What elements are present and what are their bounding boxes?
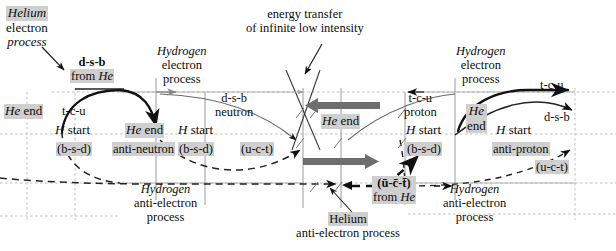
label-tcu-2: t-c-u [404,91,437,105]
curve-helium-anti-electron-left-start [62,131,120,183]
label-helium-electron-process-line3: process [6,35,48,50]
label-he-end-4: He end [466,104,487,133]
label-tcu-3: t-c-u [540,78,564,92]
label-he-end-1: He end [4,104,43,119]
label-helium-electron-process: Helium electron process [6,6,48,50]
label-dsb-1: d-s-b [215,91,253,105]
label-dsb-from-he: d-s-b from He [70,55,114,83]
label-dsb-2: d-s-b [544,110,570,124]
label-energy-transfer-line1: energy transfer [246,7,364,21]
label-hep-left-line2: electron [157,58,207,72]
label-hydrogen-anti-electron-process-right: Hydrogen anti-electron process [443,182,506,224]
label-haep-right-line3: process [443,210,506,224]
label-he-end-3: He end [321,114,360,129]
label-uct-bar-from-he: (ū-c̄-t̄) from He [372,176,416,204]
label-hep-right-line3: process [456,72,506,86]
label-hydrogen-anti-electron-process-left: Hydrogen anti-electron process [134,182,197,224]
thick-gray-arrows [303,98,380,169]
diagram-canvas: Helium electron process d-s-b from He Hy… [0,0,616,251]
label-proton: proton [404,105,437,119]
label-he-end-4-line2: end [466,119,487,134]
label-haep-left-line2: anti-electron [134,196,197,210]
label-uct-bar-top: (ū-c̄-t̄) [372,176,416,190]
label-helium-electron-process-line1: Helium [6,6,48,21]
label-uct-2: (u-c-t) [535,160,569,174]
label-haep-centre-line1: Helium [328,212,368,226]
label-uct-1: (u-c-t) [240,142,274,156]
label-haep-left-line1: Hydrogen [134,182,197,196]
label-h-start-1: H start [55,123,90,138]
label-neutron: neutron [215,105,253,119]
label-bsd-1: (b-s-d) [56,142,92,156]
label-haep-right-line1: Hydrogen [443,182,506,196]
label-helium-anti-electron-process: Helium anti-electron process [268,212,428,240]
label-anti-proton: anti-proton [492,142,550,156]
label-h-start-3: H start [406,123,441,138]
label-hep-left-line3: process [157,72,207,86]
label-hydrogen-electron-process-left: Hydrogen electron process [157,44,207,86]
label-neutron-group: d-s-b neutron [215,91,253,119]
label-anti-neutron: anti-neutron [112,142,175,156]
label-hep-right-line2: electron [456,58,506,72]
label-helium-electron-process-line2: electron [6,21,48,36]
label-he-end-2: He end [125,123,164,138]
label-haep-right-line2: anti-electron [443,196,506,210]
label-hydrogen-electron-process-right: Hydrogen electron process [456,44,506,86]
label-energy-transfer-line2: of infinite low intensity [246,21,364,35]
arrowhead-left-center [342,181,352,190]
label-uct-bar-bottom: from He [372,190,416,204]
label-dsb-from-he-top: d-s-b [70,55,114,69]
label-proton-group: t-c-u proton [404,91,437,119]
label-he-end-4-line1: He [466,104,487,119]
label-haep-left-line3: process [134,210,197,224]
label-bsd-2: (b-s-d) [178,142,214,156]
label-h-start-anti-proton: H start [496,123,531,138]
label-dsb-from-he-bottom: from He [70,69,114,83]
label-hep-right-line1: Hydrogen [456,44,506,58]
label-tcu-1: t-c-u [62,104,86,118]
label-hep-left-line1: Hydrogen [157,44,207,58]
label-haep-centre-line2: anti-electron process [268,226,428,240]
label-h-start-2: H start [178,123,213,138]
label-bsd-3: (b-s-d) [406,142,442,156]
label-energy-transfer: energy transfer of infinite low intensit… [246,7,364,35]
